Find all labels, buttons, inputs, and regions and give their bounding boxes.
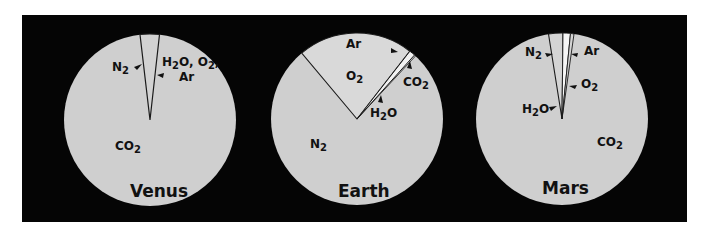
venus-pie: N2 H2O, O2, Ar CO2 Venus <box>64 34 236 206</box>
mars-pie: N2 Ar O2 H2O CO2 Mars <box>476 33 648 205</box>
venus-trace-label: H2O, O2, <box>162 55 219 71</box>
venus-ar-label: Ar <box>179 70 194 84</box>
earth-title: Earth <box>338 181 390 201</box>
earth-pie: Ar O2 CO2 H2O N2 Earth <box>271 33 443 205</box>
venus-title: Venus <box>130 181 188 201</box>
earth-ar-label: Ar <box>346 37 361 51</box>
mars-ar-label: Ar <box>584 44 599 58</box>
mars-title: Mars <box>542 178 589 198</box>
atmosphere-composition-figure: N2 H2O, O2, Ar CO2 Venus Ar O2 CO2 H2O N… <box>0 0 713 231</box>
